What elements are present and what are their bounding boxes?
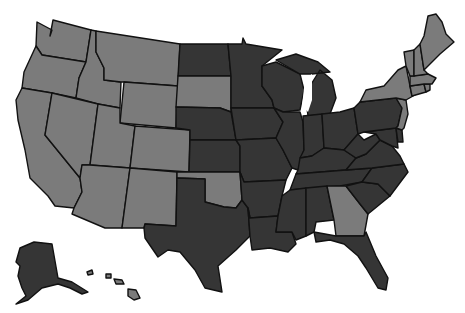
- state-MT[interactable]: [96, 31, 180, 86]
- state-AZ[interactable]: [72, 165, 130, 228]
- state-HI-2[interactable]: [106, 274, 111, 278]
- state-CO[interactable]: [130, 126, 190, 172]
- state-HI-4[interactable]: [128, 289, 140, 300]
- state-ME[interactable]: [420, 14, 454, 70]
- state-PA[interactable]: [354, 98, 402, 134]
- state-ND[interactable]: [178, 44, 231, 76]
- state-NM[interactable]: [122, 168, 177, 228]
- us-states-map: [0, 0, 465, 313]
- state-FL[interactable]: [314, 232, 388, 290]
- state-WY[interactable]: [120, 82, 178, 128]
- state-AK[interactable]: [16, 242, 88, 304]
- state-IA[interactable]: [231, 108, 283, 140]
- state-HI-1[interactable]: [87, 270, 93, 275]
- state-HI-3[interactable]: [114, 279, 124, 284]
- state-KS[interactable]: [189, 140, 240, 172]
